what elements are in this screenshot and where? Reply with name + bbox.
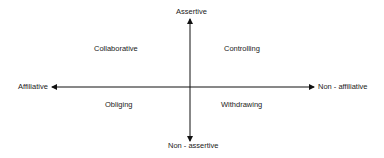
quadrant-controlling: Controlling [224,45,260,53]
axis-label-non-assertive: Non - assertive [168,142,218,150]
axis-label-non-affiliative: Non - affiliative [318,83,367,91]
quadrant-withdrawing: Withdrawing [221,101,262,109]
axis-label-affiliative: Affiliative [18,83,48,91]
axes-graphic [0,0,384,158]
axis-label-assertive: Assertive [176,8,207,16]
quadrant-obliging: Obliging [105,101,133,109]
quadrant-collaborative: Collaborative [94,45,138,53]
